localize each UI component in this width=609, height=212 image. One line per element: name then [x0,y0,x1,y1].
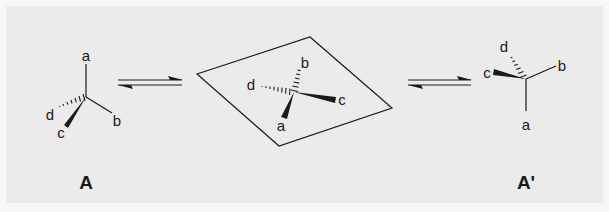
wedge-bond-c [294,92,336,103]
atom-label-b: b [558,57,566,74]
atom-label-d: d [247,76,255,93]
bond-b [86,97,112,113]
equilibrium-arrow-1 [118,76,183,89]
atom-label-a: a [277,117,286,134]
molecule-a: a b c d A [46,47,121,193]
wedge-bond-a [281,92,294,119]
atom-label-a: a [82,47,91,64]
wedge-bond-c [64,97,86,128]
hashed-bond-b [291,70,301,92]
equilibrium-arrow-2 [408,76,472,89]
compound-label-a-prime: A' [517,172,535,193]
plane-parallelogram [197,37,392,146]
atom-label-d: d [500,38,508,55]
atom-label-c: c [57,124,65,141]
atom-label-d: d [46,106,54,123]
stereochemistry-diagram: a b c d A [0,0,609,212]
atom-label-a: a [522,116,531,133]
bond-b [526,66,556,79]
atom-label-c: c [338,91,346,108]
atom-label-c: c [483,64,491,81]
molecule-a-prime: d c b a A' [483,38,566,193]
arrowhead-forward-icon [168,76,183,80]
arrowhead-reverse-icon [408,85,423,89]
atom-label-b: b [113,112,121,129]
arrowhead-forward-icon [457,76,472,80]
hashed-bond-d [511,57,527,77]
arrowhead-reverse-icon [118,85,133,89]
planar-intermediate: b d c a [197,37,392,146]
atom-label-b: b [301,54,309,71]
hashed-bond-d [262,86,290,95]
compound-label-a: A [79,172,93,193]
